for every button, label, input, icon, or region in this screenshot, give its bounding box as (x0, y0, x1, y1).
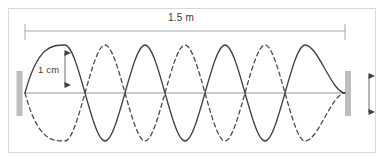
clamp-left (17, 71, 23, 116)
wave-diagram-svg (0, 0, 384, 161)
standing-wave-figure: 1.5 m 1 cm (0, 0, 384, 161)
clamp-right (345, 71, 351, 116)
length-dimension (25, 24, 345, 40)
length-label: 1.5 m (168, 12, 194, 23)
amplitude-label: 1 cm (38, 64, 59, 75)
figure-border (9, 9, 376, 153)
